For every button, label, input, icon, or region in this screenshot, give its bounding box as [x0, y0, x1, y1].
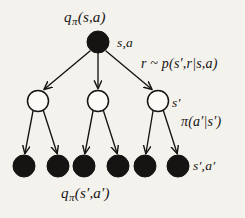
action-node-leaf-6	[167, 155, 189, 177]
leaf-value-args: (s′,a′)	[75, 185, 110, 201]
leaf-value-label: qπ(s′,a′)	[61, 186, 110, 203]
action-node-leaf-4	[107, 155, 129, 177]
state-node-2	[88, 91, 109, 112]
edge-state3-to-leaf-5	[146, 111, 153, 153]
edge-state2-to-leaf-3	[85, 111, 93, 153]
edges-state-to-action	[25, 111, 177, 153]
action-nodes-row	[13, 155, 189, 177]
edge-root-to-state-1	[45, 51, 91, 89]
edge-state1-to-leaf-1	[25, 111, 33, 153]
policy-label: π(a′|s′)	[181, 115, 221, 129]
next-state-action-label: s′,a′	[193, 159, 215, 173]
root-node-label: s,a	[117, 36, 133, 50]
state-node-3	[148, 91, 169, 112]
leaf-value-symbol: q	[61, 185, 69, 201]
root-state-action-node	[87, 31, 109, 53]
root-node-group	[87, 31, 109, 53]
backup-diagram-figure: qπ(s,a) s,a r ~ p(s′,r|s,a) s′ π(a′|s′) …	[0, 0, 245, 218]
root-value-symbol: q	[64, 9, 72, 25]
transition-probability-label: r ~ p(s′,r|s,a)	[141, 57, 218, 71]
state-node-1	[28, 91, 49, 112]
action-node-leaf-2	[47, 155, 69, 177]
edge-state3-to-leaf-6	[164, 111, 178, 153]
action-node-leaf-3	[73, 155, 95, 177]
edge-state2-to-leaf-4	[104, 111, 118, 153]
root-value-label: qπ(s,a)	[64, 10, 106, 27]
action-node-leaf-5	[134, 155, 156, 177]
root-value-args: (s,a)	[78, 9, 106, 25]
next-state-label: s′	[172, 96, 181, 110]
edge-state1-to-leaf-2	[44, 111, 58, 153]
action-node-leaf-1	[13, 155, 35, 177]
state-nodes-row	[28, 91, 169, 112]
edges-root-to-states	[45, 51, 152, 89]
backup-diagram-canvas	[0, 0, 245, 218]
